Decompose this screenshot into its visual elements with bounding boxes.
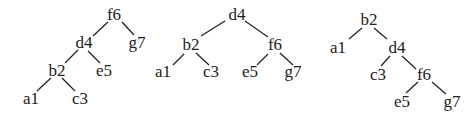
node-a1: a1 [330,38,346,57]
node-b2: b2 [183,35,200,54]
node-e5: e5 [242,62,258,81]
node-c3: c3 [370,65,386,84]
node-g7: g7 [129,33,147,52]
tree-2: d4b2f6a1c3e5g7 [155,5,302,81]
node-d4: d4 [229,5,247,24]
edge-f6-e5 [257,54,268,65]
node-a1: a1 [23,89,39,108]
edge-d4-f6 [245,21,268,37]
edge-b2-a1 [349,28,362,39]
node-b2: b2 [49,61,66,80]
node-g7: g7 [285,62,303,81]
node-d4: d4 [76,33,94,52]
node-b2: b2 [361,10,378,29]
node-d4: d4 [389,38,407,57]
node-g7: g7 [444,92,462,111]
node-c3: c3 [72,89,88,108]
node-f6: f6 [417,65,431,84]
edge-b2-d4 [374,28,387,39]
node-f6: f6 [107,5,121,24]
node-a1: a1 [155,62,171,81]
edge-f6-d4 [93,22,108,36]
tree-3: b2a1d4c3f6e5g7 [330,10,461,111]
node-e5: e5 [96,61,112,80]
node-c3: c3 [203,62,219,81]
node-e5: e5 [394,92,410,111]
tree-diagram-canvas: f6d4g7b2e5a1c3 d4b2f6a1c3e5g7 b2a1d4c3f6… [0,0,474,114]
node-f6: f6 [268,35,282,54]
edge-d4-b2 [201,21,225,36]
edge-d4-f6 [402,56,416,69]
tree-1: f6d4g7b2e5a1c3 [23,5,146,108]
edge-b2-a1 [173,54,184,65]
